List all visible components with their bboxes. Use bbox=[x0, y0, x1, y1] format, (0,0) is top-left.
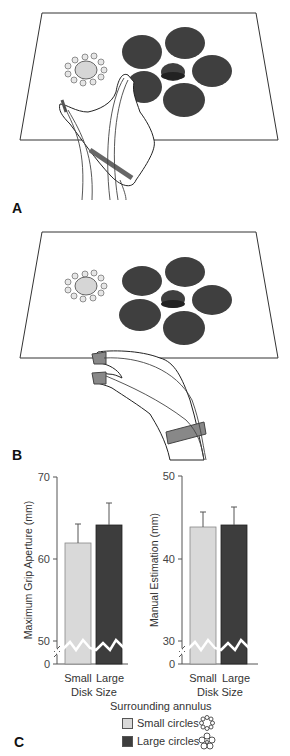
tick-0: 0 bbox=[44, 658, 50, 670]
tick-50: 50 bbox=[38, 635, 50, 647]
y-axis-title: Manual Estimation (mm) bbox=[148, 513, 160, 627]
small-swatch bbox=[122, 718, 133, 729]
legend-title: Surrounding annulus bbox=[110, 700, 215, 712]
chart-manual-estimation: 50 40 30 0 Small Large Disk Size Manual … bbox=[140, 460, 290, 680]
legend-label-small: Small circles bbox=[137, 717, 199, 729]
category-large: Large bbox=[222, 672, 250, 684]
x-axis-title: Disk Size bbox=[197, 686, 243, 698]
legend-label-large: Large circles bbox=[137, 735, 199, 747]
large-circles-annulus-icon bbox=[199, 733, 215, 749]
tick-50: 50 bbox=[163, 470, 175, 482]
tick-70: 70 bbox=[38, 471, 50, 483]
small-circles-annulus-icon bbox=[199, 715, 215, 731]
tick-0: 0 bbox=[169, 658, 175, 670]
category-large: Large bbox=[96, 672, 124, 684]
category-small: Small bbox=[189, 672, 217, 684]
category-small: Small bbox=[64, 672, 92, 684]
large-swatch bbox=[122, 736, 133, 747]
y-axis-title: Maximum Grip Aperture (mm) bbox=[22, 501, 34, 639]
tick-40: 40 bbox=[163, 553, 175, 565]
illustration-panel-b bbox=[0, 200, 290, 460]
x-axis-title: Disk Size bbox=[71, 686, 117, 698]
hand-estimating bbox=[92, 351, 206, 460]
tick-60: 60 bbox=[38, 553, 50, 565]
legend-item-large: Large circles bbox=[110, 732, 215, 750]
legend-item-small: Small circles bbox=[110, 714, 215, 732]
illustration-panel-a bbox=[0, 0, 290, 200]
panel-label-c: C bbox=[14, 734, 24, 750]
legend: Surrounding annulus Small circles Large … bbox=[110, 700, 215, 750]
tick-30: 30 bbox=[163, 635, 175, 647]
chart-max-grip-aperture: 70 60 50 0 Small Large Disk Size Maximum… bbox=[0, 460, 150, 680]
